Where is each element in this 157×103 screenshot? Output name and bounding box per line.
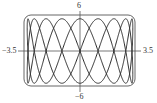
y-min-label: −6 — [75, 93, 84, 101]
x-max-label: 3.5 — [143, 47, 153, 55]
x-min-label: −3.5 — [2, 47, 17, 55]
plot-canvas — [0, 0, 157, 103]
y-max-label: 6 — [77, 2, 81, 10]
